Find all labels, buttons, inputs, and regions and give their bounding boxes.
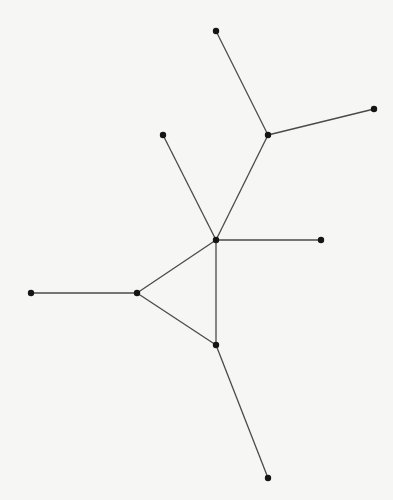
node-upper-left [160, 132, 166, 138]
graph-edges [31, 31, 374, 478]
graph-diagram [0, 0, 393, 500]
node-top [213, 28, 219, 34]
node-upper-right [371, 106, 377, 112]
edge-upper-left-hub [163, 135, 216, 240]
node-hub-right [318, 237, 324, 243]
node-branch [265, 132, 271, 138]
edge-tri-bottom-bottom [216, 345, 268, 478]
node-tri-left [134, 290, 140, 296]
node-far-left [28, 290, 34, 296]
edge-tri-left-tri-bottom [137, 293, 216, 345]
edge-hub-tri-left [137, 240, 216, 293]
node-hub [213, 237, 219, 243]
graph-nodes [28, 28, 377, 481]
edge-branch-hub [216, 135, 268, 240]
edge-upper-right-branch [268, 109, 374, 135]
edge-top-branch [216, 31, 268, 135]
node-tri-bottom [213, 342, 219, 348]
node-bottom [265, 475, 271, 481]
